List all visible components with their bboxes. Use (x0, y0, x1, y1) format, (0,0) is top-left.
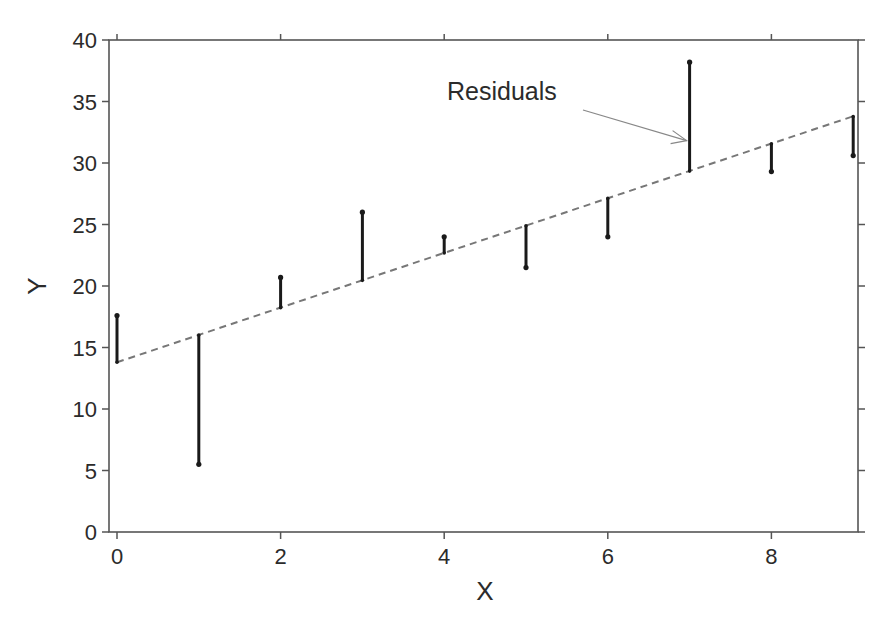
plot-border (109, 40, 858, 532)
fitted-point (524, 224, 528, 228)
data-point (442, 234, 447, 239)
annotation: Residuals (447, 77, 687, 144)
fitted-point (688, 169, 692, 173)
residual-segments (114, 60, 855, 467)
data-point (851, 153, 856, 158)
data-point (360, 210, 365, 215)
y-tick-label: 10 (73, 397, 97, 422)
fitted-point (851, 115, 855, 119)
y-tick-label: 25 (73, 213, 97, 238)
fitted-point (279, 306, 283, 310)
fitted-point (361, 279, 365, 283)
y-tick-label: 15 (73, 336, 97, 361)
y-tick-label: 5 (85, 459, 97, 484)
data-point (605, 234, 610, 239)
y-axis-title: Y (22, 277, 52, 294)
data-point (687, 60, 692, 65)
fit-line (117, 116, 853, 362)
fitted-point (770, 142, 774, 146)
fitted-point (442, 251, 446, 255)
x-tick-label: 6 (602, 544, 614, 569)
x-tick-label: 0 (111, 544, 123, 569)
data-point (114, 313, 119, 318)
y-tick-label: 35 (73, 90, 97, 115)
y-tick-label: 0 (85, 520, 97, 545)
residuals-chart: 0510152025303540 02468 Residuals X Y (0, 0, 891, 633)
data-point (523, 265, 528, 270)
plot-frame (109, 40, 858, 532)
fitted-regression-line (117, 116, 853, 362)
data-point (196, 462, 201, 467)
x-tick-label: 2 (274, 544, 286, 569)
fitted-point (197, 333, 201, 337)
y-tick-label: 30 (73, 151, 97, 176)
y-axis: 0510152025303540 (73, 28, 865, 545)
fitted-point (606, 197, 610, 201)
x-tick-label: 8 (765, 544, 777, 569)
data-point (278, 275, 283, 280)
fitted-point (115, 360, 119, 364)
y-tick-label: 40 (73, 28, 97, 53)
y-tick-label: 20 (73, 274, 97, 299)
x-tick-label: 4 (438, 544, 450, 569)
x-axis: 02468 (111, 34, 778, 569)
data-point (769, 169, 774, 174)
x-axis-title: X (476, 576, 493, 606)
residuals-annotation-label: Residuals (447, 77, 557, 105)
annotation-arrow-line (583, 110, 687, 141)
